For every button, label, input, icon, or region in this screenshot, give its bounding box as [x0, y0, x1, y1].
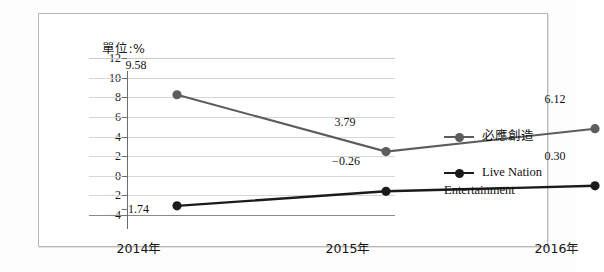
legend-item-0[interactable]: 必應創造 — [444, 126, 579, 144]
data-label: 9.58 — [126, 58, 147, 73]
legend-marker-icon — [444, 168, 474, 178]
data-point — [590, 181, 599, 190]
data-point — [590, 124, 599, 133]
legend-label: 必應創造 — [482, 128, 534, 143]
data-label: 3.79 — [335, 115, 356, 130]
data-point — [381, 187, 390, 196]
data-point — [172, 90, 181, 99]
legend-item-1[interactable]: Live Nation Entertainment — [444, 162, 579, 198]
data-point — [381, 147, 390, 156]
legend-marker-icon — [444, 132, 474, 142]
data-label: 6.12 — [545, 92, 566, 107]
data-label: −1.74 — [121, 202, 149, 217]
data-label: −0.26 — [332, 154, 360, 169]
data-point — [172, 201, 181, 210]
chart-legend: 必應創造Live Nation Entertainment — [444, 126, 579, 216]
chart-frame: 單位:% 121086420−2−4 2014年2015年2016年 9.583… — [38, 13, 548, 247]
